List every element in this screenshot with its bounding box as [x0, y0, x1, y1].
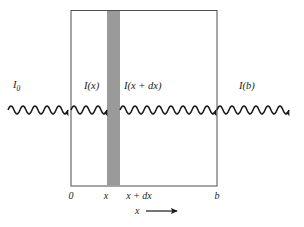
intensity-at-b-label: I(b): [239, 81, 255, 92]
wave-at-x: [71, 106, 107, 114]
wave-at-x-plus-dx: [120, 106, 216, 114]
incident-intensity-subscript: 0: [17, 84, 21, 93]
axis-tick-x: x: [104, 191, 108, 201]
medium-box: [71, 11, 217, 187]
thin-layer-slab: [107, 11, 120, 186]
incident-intensity-label: I0: [13, 80, 20, 93]
incident-wave: [8, 106, 68, 114]
absorption-diagram: I0 I(x) I(x + dx) I(b) 0 x x + dx b x: [0, 0, 304, 227]
axis-tick-0: 0: [69, 191, 74, 201]
intensity-at-x-label: I(x): [84, 81, 99, 92]
transmitted-wave: [217, 106, 289, 114]
axis-tick-x-plus-dx: x + dx: [126, 191, 152, 201]
axis-tick-b: b: [215, 191, 220, 201]
x-axis-label: x: [135, 206, 139, 216]
intensity-at-x-plus-dx-label: I(x + dx): [124, 81, 161, 92]
